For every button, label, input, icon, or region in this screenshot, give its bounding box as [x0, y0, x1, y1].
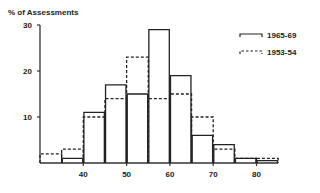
- legend: 1965-691953-54: [240, 31, 297, 57]
- bar-1965-69-55-60: [149, 30, 169, 163]
- bar-1965-69-65-70: [192, 135, 212, 163]
- bar-1953-54-60-65: [170, 94, 192, 163]
- bar-1953-54-75-80: [235, 158, 257, 163]
- bar-1953-54-65-70: [192, 117, 214, 163]
- y-axis: 102030: [23, 21, 40, 163]
- svg-text:30: 30: [23, 21, 32, 30]
- svg-text:50: 50: [122, 170, 131, 179]
- svg-text:20: 20: [23, 67, 32, 76]
- bar-1965-69-50-55: [127, 94, 147, 163]
- svg-text:40: 40: [79, 170, 88, 179]
- series-solid: [62, 30, 277, 163]
- svg-text:10: 10: [23, 113, 32, 122]
- bar-1953-54-50-55: [127, 57, 149, 163]
- bar-1953-54-70-75: [213, 149, 235, 163]
- svg-text:60: 60: [165, 170, 174, 179]
- x-axis: 4050607080: [40, 163, 278, 179]
- svg-text:70: 70: [209, 170, 218, 179]
- bar-1953-54-40-45: [83, 117, 105, 163]
- histogram-chart: % of Assessments 102030 4050607080 1965-…: [0, 0, 320, 193]
- bar-1965-69-75-80: [235, 158, 255, 163]
- bar-1953-54-35-40: [62, 149, 84, 163]
- bar-1965-69-40-45: [84, 112, 104, 163]
- bar-1953-54-30-35: [40, 154, 62, 163]
- legend-entry: 1953-54: [267, 48, 297, 57]
- bar-1965-69-60-65: [171, 76, 191, 163]
- bar-1965-69-45-50: [106, 85, 126, 163]
- y-axis-label: % of Assessments: [8, 8, 79, 17]
- bar-1965-69-35-40: [62, 158, 82, 163]
- bar-1953-54-55-60: [148, 99, 170, 163]
- bar-1953-54-45-50: [105, 99, 127, 163]
- bar-1965-69-70-75: [214, 145, 234, 163]
- legend-entry: 1965-69: [267, 31, 297, 40]
- series-dashed: [40, 57, 278, 163]
- svg-text:80: 80: [252, 170, 261, 179]
